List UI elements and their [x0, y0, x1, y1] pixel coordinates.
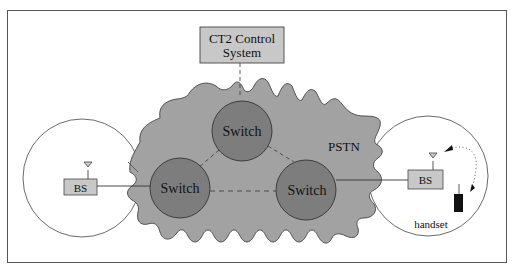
handset-icon	[454, 194, 463, 212]
switch-right-label: Switch	[288, 183, 327, 198]
control-system-line1: CT2 Control	[209, 31, 275, 46]
pstn-label: PSTN	[328, 139, 360, 154]
switch-top-label: Switch	[223, 124, 262, 139]
switch-right: Switch	[276, 160, 336, 220]
ct2-network-diagram: Switch Switch Switch PSTN CT2 Control Sy…	[0, 0, 514, 271]
handset-label: handset	[414, 218, 448, 230]
switch-left-label: Switch	[161, 181, 200, 196]
control-system-line2: System	[223, 45, 261, 60]
pstn-cloud	[128, 79, 383, 244]
switch-top: Switch	[212, 101, 272, 161]
ct2-control-system-box: CT2 Control System	[200, 27, 284, 63]
switch-left: Switch	[150, 158, 210, 218]
bs-left-label: BS	[74, 182, 87, 194]
bs-right-label: BS	[419, 174, 432, 186]
left-cell-coverage	[23, 119, 141, 237]
